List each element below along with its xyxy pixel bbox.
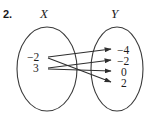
set-oval-y <box>91 27 143 111</box>
mapping-diagram-figure: 2. X Y −2 3 −4 −2 0 2 <box>0 0 149 118</box>
set-oval-x <box>17 27 77 111</box>
set-x-member-1: 3 <box>33 63 39 75</box>
set-y-member-3: 2 <box>121 78 127 90</box>
mapping-arrow-3 <box>48 69 111 71</box>
mapping-arrow-0 <box>48 49 111 57</box>
